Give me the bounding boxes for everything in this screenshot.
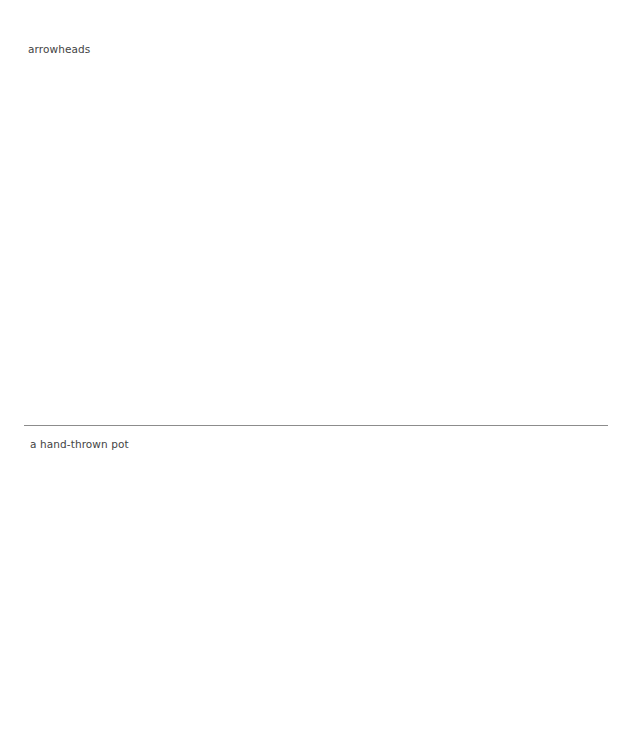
- caption-hand-thrown-pot: a hand-thrown pot: [30, 437, 129, 451]
- image-arrowheads: [24, 64, 608, 412]
- panel-arrowheads: arrowheads: [0, 0, 624, 420]
- image-hand-thrown-pot: [24, 459, 608, 728]
- caption-arrowheads: arrowheads: [28, 42, 90, 56]
- section-divider: [24, 425, 608, 426]
- panel-hand-thrown-pot: a hand-thrown pot: [0, 427, 624, 736]
